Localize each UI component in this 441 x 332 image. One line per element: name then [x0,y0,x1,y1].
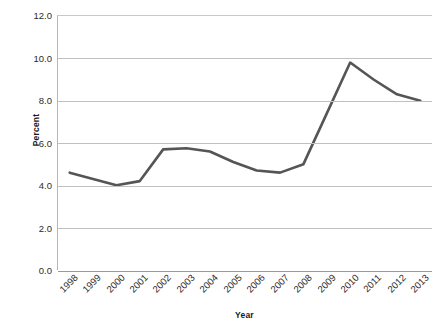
gridline-4.0 [58,186,432,187]
y-tick-label: 10.0 [8,52,52,63]
x-tick-label: 2008 [291,272,314,295]
gridline-2.0 [58,228,432,229]
y-tick-label: 2.0 [8,222,52,233]
y-tick-label: 6.0 [8,137,52,148]
x-tick-label: 2000 [104,272,127,295]
x-tick-label: 1998 [57,272,80,295]
x-tick-label: 2011 [361,272,383,294]
y-axis-tick-labels: 0.02.04.06.08.010.012.0 [0,0,52,332]
series-polyline-percent [70,63,421,186]
y-tick-label: 0.0 [8,265,52,276]
x-tick-label: 2007 [268,272,291,295]
x-tick-label: 2002 [151,272,174,295]
y-tick-label: 12.0 [8,10,52,21]
x-tick-label: 2010 [338,272,361,295]
x-axis-title: Year [57,310,432,320]
x-axis-tick-labels: 1998199920002001200220032004200520062007… [57,272,432,312]
gridline-8.0 [58,101,432,102]
gridline-10.0 [58,58,432,59]
plot-area [57,15,432,270]
y-tick-label: 8.0 [8,95,52,106]
x-tick-label: 2009 [315,272,338,295]
line-chart: Percent 0.02.04.06.08.010.012.0 19981999… [0,0,441,332]
x-tick-label: 2013 [408,272,431,295]
x-tick-label: 2012 [385,272,408,295]
gridline-6.0 [58,143,432,144]
x-tick-label: 2006 [244,272,267,295]
x-tick-label: 2005 [221,272,244,295]
x-tick-label: 2004 [198,272,221,295]
x-tick-label: 1999 [80,272,103,295]
x-tick-label: 2001 [127,272,150,295]
x-tick-label: 2003 [174,272,197,295]
y-tick-label: 4.0 [8,180,52,191]
